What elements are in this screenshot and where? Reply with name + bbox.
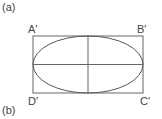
corner-label-a: A′: [28, 24, 37, 35]
corner-label-b: B′: [137, 24, 146, 35]
corner-label-d: D′: [28, 96, 38, 107]
corner-label-c: C′: [140, 96, 150, 107]
panel-label-b: (b): [2, 105, 15, 116]
ellipse-rectangle-diagram: [0, 0, 162, 119]
